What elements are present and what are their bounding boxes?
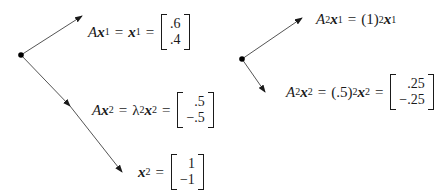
equation-ax2: Ax2 = λ2x2 = .5−.5 — [92, 92, 214, 128]
vector-entry: 1 — [188, 156, 195, 172]
equals-sign: = — [375, 85, 383, 100]
equation-ax1: Ax1 = x1 = .6.4 — [88, 14, 190, 50]
vector-x2: 1−1 — [171, 154, 204, 190]
coefficient: (.5) — [331, 85, 352, 100]
vector-a2x2: .25−.25 — [390, 74, 433, 110]
equals-sign: = — [146, 25, 154, 40]
symbol-x: x — [357, 85, 365, 100]
arrow-a2x2 — [242, 59, 265, 92]
symbol-x: x — [300, 85, 308, 100]
symbol-x: x — [144, 103, 152, 118]
arrow-x1 — [21, 16, 82, 55]
subscript: 1 — [105, 27, 110, 37]
equals-sign: = — [119, 103, 127, 118]
equation-a2x2: A2x2 = (.5)2x2 = .25−.25 — [286, 74, 434, 110]
subscript: 2 — [152, 105, 157, 115]
vector-entry: −1 — [180, 172, 195, 188]
subscript: 2 — [109, 105, 114, 115]
equation-x2: x2 = 1−1 — [138, 154, 204, 190]
subscript: 2 — [365, 87, 370, 97]
bracket-right — [428, 74, 434, 110]
vector-entry: .25 — [407, 76, 425, 92]
vector-entry: −.5 — [186, 110, 204, 126]
symbol-x: x — [101, 103, 109, 118]
subscript: 2 — [146, 167, 151, 177]
arrow-ax2 — [21, 55, 70, 106]
origin-dot-right — [239, 56, 245, 62]
symbol-lambda: λ — [132, 103, 139, 118]
symbol-x: x — [128, 25, 136, 40]
symbol-a: A — [286, 85, 295, 100]
vector-entry: .5 — [194, 94, 205, 110]
vector-entry: .6 — [170, 16, 181, 32]
vector-entry: .4 — [170, 32, 181, 48]
equals-sign: = — [156, 165, 164, 180]
symbol-a: A — [316, 12, 325, 27]
subscript: 1 — [136, 27, 141, 37]
arrow-a2x1 — [242, 18, 302, 59]
symbol-x: x — [97, 25, 105, 40]
symbol-a: A — [92, 103, 101, 118]
subscript: 1 — [391, 15, 396, 25]
origin-dot-left — [18, 52, 24, 58]
equation-a2x1: A2x1 = (1)2x1 — [316, 12, 396, 27]
vector-entry: −.25 — [399, 92, 424, 108]
coefficient: (1) — [361, 12, 379, 27]
symbol-x: x — [330, 12, 338, 27]
symbol-x: x — [384, 12, 392, 27]
bracket-right — [208, 92, 214, 128]
symbol-x: x — [138, 165, 146, 180]
subscript: 2 — [308, 87, 313, 97]
equals-sign: = — [318, 85, 326, 100]
subscript: 1 — [338, 15, 343, 25]
vector-x1: .6.4 — [161, 14, 190, 50]
equals-sign: = — [115, 25, 123, 40]
equals-sign: = — [348, 12, 356, 27]
symbol-a: A — [88, 25, 97, 40]
equals-sign: = — [162, 103, 170, 118]
bracket-right — [198, 154, 204, 190]
vector-ax2: .5−.5 — [177, 92, 213, 128]
bracket-right — [184, 14, 190, 50]
